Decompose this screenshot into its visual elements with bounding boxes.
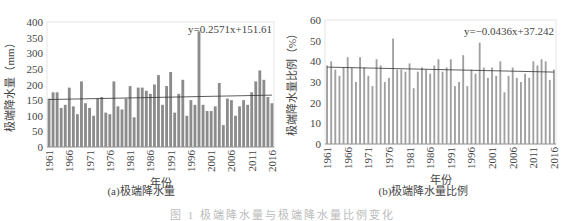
x-tick-label: 1981	[404, 147, 416, 169]
bar	[442, 72, 444, 144]
bar	[334, 70, 336, 144]
bar	[429, 74, 431, 144]
bar	[222, 125, 225, 147]
x-tick-label: 2016	[266, 150, 278, 173]
bar	[409, 63, 411, 144]
bar	[64, 105, 67, 147]
bar	[173, 113, 176, 147]
bar	[112, 81, 115, 147]
y-tick-label: 400	[27, 16, 44, 28]
bar	[88, 108, 91, 147]
bar	[425, 70, 427, 144]
bar	[108, 114, 111, 147]
bar	[214, 106, 217, 147]
x-tick-label: 1986	[144, 150, 156, 173]
bar	[372, 86, 374, 144]
bar	[553, 70, 555, 144]
bar	[254, 81, 257, 147]
bar	[475, 74, 477, 144]
x-tick-label: 1971	[362, 147, 374, 169]
bar-chart-extreme-precipitation: 050100150200250300350400y=0.2571x+151.61…	[0, 0, 282, 200]
y-tick-label: 30	[310, 76, 322, 88]
bar	[242, 100, 245, 147]
x-tick-label: 2006	[225, 150, 237, 173]
chart-b-title: (b)极端降水量比例	[282, 182, 565, 198]
bar	[545, 61, 547, 144]
bar	[60, 108, 63, 147]
bar	[234, 116, 237, 147]
bar	[271, 103, 274, 147]
bar	[520, 82, 522, 144]
y-tick-label: 250	[27, 63, 44, 75]
bar	[100, 97, 103, 147]
bar	[121, 110, 124, 148]
bar	[454, 86, 456, 144]
bar	[392, 39, 394, 144]
bar	[326, 65, 328, 144]
y-tick-label: 200	[27, 79, 44, 91]
bar	[181, 80, 184, 147]
y-axis-label: 极端降水量（mm）	[3, 37, 16, 131]
x-tick-label: 2011	[246, 150, 258, 172]
bar	[68, 88, 71, 147]
y-tick-label: 50	[310, 35, 322, 47]
bar	[462, 55, 464, 144]
bar	[438, 59, 440, 144]
bar	[149, 94, 152, 147]
y-tick-label: 50	[32, 125, 44, 137]
bar	[129, 86, 132, 147]
bar	[343, 68, 345, 144]
y-tick-label: 60	[310, 14, 322, 26]
bar	[450, 59, 452, 144]
bar	[210, 111, 213, 147]
bar	[169, 72, 172, 147]
bar	[528, 78, 530, 144]
bar	[246, 105, 249, 147]
x-tick-label: 1996	[185, 150, 197, 173]
bar	[359, 57, 361, 144]
y-tick-label: 150	[27, 94, 44, 106]
bar	[524, 74, 526, 144]
bar	[355, 82, 357, 144]
x-tick-label: 1966	[342, 147, 354, 170]
bar	[405, 72, 407, 144]
bar	[267, 97, 270, 147]
x-tick-label: 1966	[63, 150, 75, 173]
bar	[413, 88, 415, 144]
bar	[487, 78, 489, 144]
bar	[133, 117, 136, 147]
y-tick-label: 10	[310, 117, 322, 129]
bar	[421, 68, 423, 144]
bar-chart-extreme-precipitation-ratio: 0102030405060y=−0.0436x+37.2421961196619…	[282, 0, 565, 200]
bar	[417, 72, 419, 144]
bar	[516, 78, 518, 144]
x-tick-label: 2001	[205, 150, 217, 172]
bar	[471, 70, 473, 144]
bar	[532, 61, 534, 144]
bar	[165, 86, 168, 147]
bar	[376, 59, 378, 144]
bar	[238, 106, 241, 147]
bar	[367, 76, 369, 144]
bar	[250, 92, 253, 147]
y-axis-label: 极端降水量比例（%）	[285, 28, 298, 136]
bar	[80, 81, 83, 147]
x-tick-label: 1996	[465, 147, 477, 170]
bar	[141, 88, 144, 147]
bar	[76, 114, 79, 147]
bar	[499, 61, 501, 144]
y-tick-label: 300	[27, 47, 44, 59]
bar	[189, 100, 192, 147]
bar	[161, 105, 164, 147]
bar	[206, 111, 209, 147]
bar	[504, 92, 506, 144]
x-tick-label: 2016	[548, 147, 560, 170]
bar	[137, 88, 140, 147]
bar	[491, 68, 493, 144]
x-tick-label: 2006	[507, 147, 519, 170]
bar	[512, 68, 514, 144]
bar	[48, 99, 51, 147]
chart-panel-a: 050100150200250300350400y=0.2571x+151.61…	[0, 0, 282, 221]
bar	[549, 80, 551, 144]
x-tick-label: 1971	[84, 150, 96, 172]
